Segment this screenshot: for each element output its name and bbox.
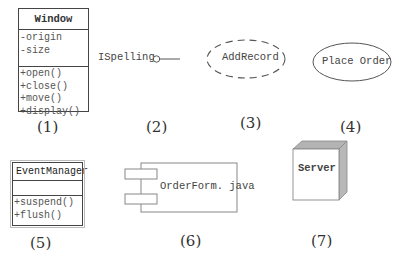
- attribute: -size: [19, 45, 88, 58]
- class-window: Window -origin -size +open() +close() +m…: [18, 8, 89, 112]
- operation: +flush(): [13, 210, 82, 223]
- caption-2: (2): [146, 118, 167, 136]
- operation: +open(): [19, 68, 88, 81]
- caption-1: (1): [37, 118, 58, 136]
- interface-name: ISpelling: [98, 51, 155, 63]
- caption-4: (4): [340, 118, 361, 136]
- class-operations: +open() +close() +move() +display(): [19, 67, 88, 118]
- class-operations: +suspend() +flush(): [13, 196, 82, 222]
- operation: +suspend(): [13, 197, 82, 210]
- component-name: OrderForm. java: [160, 180, 255, 192]
- attribute: -origin: [19, 32, 88, 45]
- caption-7: (7): [311, 232, 332, 250]
- operation: +move(): [19, 93, 88, 106]
- interface-lollipop-icon: [152, 53, 182, 65]
- use-case-name: Place Order: [322, 55, 391, 67]
- class-event-manager: EventManager +suspend() +flush(): [12, 162, 83, 226]
- operation: +display(): [19, 106, 88, 119]
- class-attributes: -origin -size: [19, 30, 88, 67]
- class-attributes: [13, 181, 82, 196]
- collaboration-name: AddRecord: [222, 51, 279, 63]
- caption-5: (5): [30, 234, 51, 252]
- node-name: Server: [298, 162, 336, 174]
- class-name: Window: [19, 9, 88, 30]
- caption-3: (3): [240, 114, 261, 132]
- node-cube: [290, 140, 350, 210]
- class-name: EventManager: [13, 163, 82, 181]
- caption-6: (6): [180, 232, 201, 250]
- operation: +close(): [19, 81, 88, 94]
